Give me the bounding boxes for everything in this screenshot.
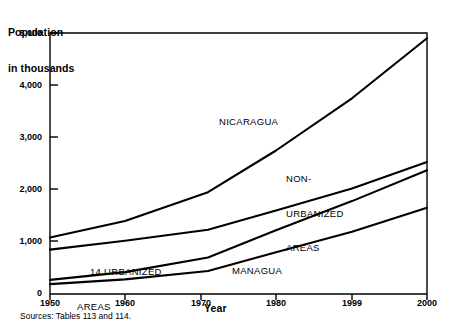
chart-plot-area [0, 0, 449, 326]
series-label-non-urbanized-areas: NON- URBANIZED AREAS [286, 150, 344, 277]
series-line-non-urbanized-areas [50, 162, 427, 250]
series-label-non-urbanized-line-1: NON- [286, 173, 344, 185]
series-label-non-urbanized-line-2: URBANIZED [286, 208, 344, 220]
population-line-chart: Population in thousands 5,000 4,000 3,00… [0, 0, 449, 326]
series-label-14-urbanized-line-1: 14 URBANIZED [77, 266, 162, 278]
series-label-nicaragua: NICARAGUA [219, 116, 278, 128]
series-line-nicaragua [50, 38, 427, 237]
series-label-non-urbanized-line-3: AREAS [286, 242, 344, 254]
y-axis-ticks [50, 33, 58, 241]
source-note: Sources: Tables 113 and 114. [20, 311, 131, 321]
series-label-managua: MANAGUA [232, 265, 282, 277]
